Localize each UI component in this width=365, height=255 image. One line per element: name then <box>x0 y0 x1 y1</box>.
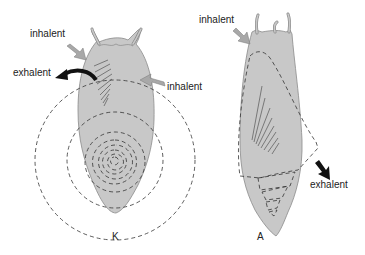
a-inhalent-top-label: inhalent <box>199 15 234 25</box>
figure-k-label: K <box>112 232 119 242</box>
k-body <box>78 30 154 213</box>
figure-a-label: A <box>257 232 264 242</box>
k-exhalent-label: exhalent <box>13 68 51 78</box>
k-inhalent-top-label: inhalent <box>30 29 65 39</box>
k-inhalent-right-label: inhalent <box>167 82 202 92</box>
k-inhalent-arrow-top <box>67 44 86 60</box>
figure-k <box>35 29 195 240</box>
a-exhalent-arrow <box>315 160 330 180</box>
a-inhalent-arrow <box>233 28 250 44</box>
figure-a <box>233 14 330 236</box>
a-exhalent-label: exhalent <box>310 180 348 190</box>
